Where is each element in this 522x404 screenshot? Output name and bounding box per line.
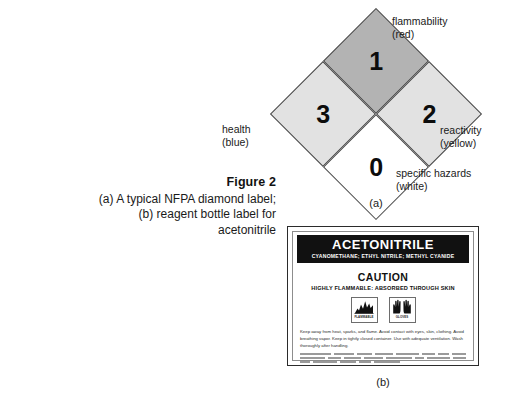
fine-print-segment — [313, 361, 337, 363]
nfpa-label-specific-hazards-color: (white) — [396, 180, 471, 193]
nfpa-label-flammability: flammability (red) — [392, 15, 447, 41]
figure-caption-line-a: (a) A typical NFPA diamond label; — [14, 192, 276, 208]
fine-print-row — [300, 357, 466, 359]
fine-print-segment — [300, 361, 310, 363]
nfpa-label-health-color: (blue) — [222, 136, 282, 149]
pictogram-row: FLAMMABLE GLOVES — [297, 297, 469, 323]
fine-print-segment — [375, 353, 393, 355]
pictogram-flammable-caption: FLAMMABLE — [354, 315, 373, 319]
nfpa-label-specific-hazards-name: specific hazards — [396, 167, 471, 180]
nfpa-label-reactivity-name: reactivity — [440, 124, 481, 137]
fine-print-segment — [334, 353, 354, 355]
panel-label-b: (b) — [365, 376, 401, 388]
reagent-bottle-label-inner-frame: ACETONITRILE CYANOMETHANE; ETHYL NITRILE… — [292, 231, 474, 361]
pictogram-gloves: GLOVES — [389, 297, 416, 323]
nfpa-flammability-rating: 1 — [369, 48, 383, 73]
fine-print-segment — [374, 361, 400, 363]
nfpa-reactivity-rating: 2 — [422, 102, 436, 127]
nfpa-label-reactivity: reactivity (yellow) — [440, 124, 481, 150]
pictogram-flammable: FLAMMABLE — [351, 297, 378, 323]
fine-print-segment — [328, 357, 341, 359]
fine-print-segment — [300, 357, 325, 359]
fine-print-row — [300, 353, 466, 355]
pictogram-gloves-caption: GLOVES — [396, 315, 409, 319]
nfpa-label-health: health (blue) — [222, 123, 282, 149]
fine-print-row — [300, 361, 466, 363]
nfpa-label-specific-hazards: specific hazards (white) — [396, 167, 471, 193]
fine-print-block — [297, 353, 469, 363]
chemical-synonyms: CYANOMETHANE; ETHYL NITRILE; METHYL CYAN… — [299, 254, 467, 260]
signal-word: CAUTION — [297, 271, 469, 283]
figure-title: Figure 2 — [14, 174, 276, 191]
fine-print-segment — [359, 361, 371, 363]
nfpa-label-flammability-name: flammability — [392, 15, 447, 28]
figure-caption-line-b: (b) reagent bottle label for — [14, 207, 276, 223]
fine-print-segment — [452, 353, 467, 355]
fine-print-segment — [344, 357, 361, 359]
fine-print-segment — [396, 353, 419, 355]
chemical-name-bar: ACETONITRILE CYANOMETHANE; ETHYL NITRILE… — [297, 235, 469, 263]
nfpa-label-health-name: health — [222, 123, 282, 136]
precautionary-text: Keep away from heat, sparks, and flame. … — [297, 329, 469, 350]
fine-print-segment — [427, 357, 450, 359]
fine-print-segment — [357, 353, 372, 355]
chemical-name: ACETONITRILE — [299, 238, 467, 252]
figure-caption: Figure 2 (a) A typical NFPA diamond labe… — [14, 174, 276, 239]
fine-print-segment — [438, 353, 449, 355]
reagent-bottle-label: ACETONITRILE CYANOMETHANE; ETHYL NITRILE… — [287, 226, 479, 366]
gloves-icon — [392, 299, 412, 314]
nfpa-specific-hazards-rating: 0 — [369, 155, 383, 180]
panel-label-a: (a) — [358, 197, 394, 209]
fine-print-segment — [340, 361, 356, 363]
flame-icon — [354, 299, 374, 314]
nfpa-label-flammability-color: (red) — [392, 28, 447, 41]
nfpa-health-rating: 3 — [316, 102, 330, 127]
fine-print-segment — [415, 357, 424, 359]
hazard-statement: HIGHLY FLAMMABLE: ABSORBED THROUGH SKIN — [297, 285, 469, 291]
fine-print-segment — [386, 357, 413, 359]
fine-print-segment — [453, 357, 466, 359]
fine-print-segment — [422, 353, 435, 355]
fine-print-segment — [300, 353, 331, 355]
figure-caption-line-c: acetonitrile — [14, 223, 276, 239]
nfpa-label-reactivity-color: (yellow) — [440, 137, 481, 150]
fine-print-segment — [364, 357, 383, 359]
figure-canvas: Figure 2 (a) A typical NFPA diamond labe… — [0, 0, 522, 404]
